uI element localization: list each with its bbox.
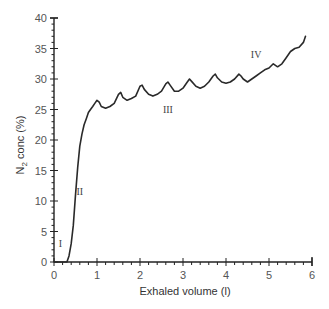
y-tick-label: 5 — [41, 226, 47, 238]
n2-washout-chart: 0510152025303540 0123456 IIIIIIIV Exhale… — [0, 0, 329, 309]
x-tick-label: 0 — [51, 269, 57, 281]
x-axis: 0123456 — [51, 257, 315, 281]
y-tick-label: 25 — [35, 104, 47, 116]
phase-annotations: IIIIIIIV — [59, 49, 262, 249]
y-tick-label: 35 — [35, 43, 47, 55]
n2-concentration-curve — [54, 36, 306, 262]
phase-label: IV — [251, 49, 262, 60]
x-tick-label: 3 — [180, 269, 186, 281]
y-axis-title-rest: conc (%) — [14, 116, 26, 162]
phase-label: I — [59, 238, 62, 249]
x-tick-label: 1 — [94, 269, 100, 281]
phase-label: II — [76, 186, 83, 197]
x-tick-label: 4 — [223, 269, 229, 281]
y-axis: 0510152025303540 — [35, 12, 58, 268]
phase-label: III — [163, 104, 173, 115]
x-tick-label: 6 — [309, 269, 315, 281]
y-tick-label: 20 — [35, 134, 47, 146]
y-tick-label: 15 — [35, 165, 47, 177]
x-tick-label: 5 — [266, 269, 272, 281]
y-axis-title-main: N — [14, 166, 26, 174]
y-tick-label: 0 — [41, 256, 47, 268]
x-tick-label: 2 — [137, 269, 143, 281]
x-axis-title: Exhaled volume (l) — [139, 285, 230, 297]
y-axis-title: N2 conc (%) — [14, 116, 29, 175]
y-tick-label: 30 — [35, 73, 47, 85]
y-tick-label: 10 — [35, 195, 47, 207]
y-tick-label: 40 — [35, 12, 47, 24]
